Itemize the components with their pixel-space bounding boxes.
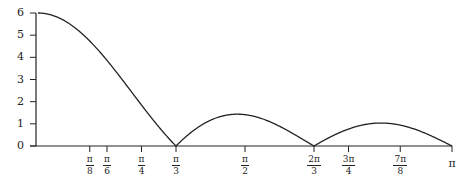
x-ticks (90, 146, 452, 152)
x-tick-label: π (440, 159, 464, 168)
function-curve (38, 13, 452, 146)
y-tick-label: 6 (10, 7, 24, 18)
x-tick-numerator: 7π (393, 155, 407, 166)
y-tick-label: 3 (10, 74, 24, 85)
x-tick-numerator: 2π (307, 155, 321, 166)
x-tick-label: π3 (164, 155, 188, 176)
x-tick-denominator: 4 (130, 166, 154, 176)
x-tick-numerator: π (172, 155, 180, 166)
x-tick-label: π4 (130, 155, 154, 176)
x-tick-numerator: 3π (342, 155, 356, 166)
y-ticks (30, 13, 36, 146)
x-tick-denominator: 4 (337, 166, 361, 176)
y-tick-label: 2 (10, 96, 24, 107)
y-tick-label: 0 (10, 140, 24, 151)
x-tick-numerator: π (86, 155, 94, 166)
x-tick-numerator: π (241, 155, 249, 166)
x-tick-label: 7π8 (388, 155, 412, 176)
x-tick-label: 3π4 (337, 155, 361, 176)
y-tick-label: 4 (10, 51, 24, 62)
x-tick-label: π6 (95, 155, 119, 176)
x-tick-denominator: 6 (95, 166, 119, 176)
x-tick-numerator: π (138, 155, 146, 166)
x-tick-denominator: 3 (164, 166, 188, 176)
x-tick-label: 2π3 (302, 155, 326, 176)
x-tick-denominator: 3 (302, 166, 326, 176)
y-tick-label: 5 (10, 29, 24, 40)
x-tick-denominator: 2 (233, 166, 257, 176)
x-tick-denominator: 8 (388, 166, 412, 176)
y-tick-label: 1 (10, 118, 24, 129)
x-tick-numerator: π (103, 155, 111, 166)
x-tick-label: π2 (233, 155, 257, 176)
